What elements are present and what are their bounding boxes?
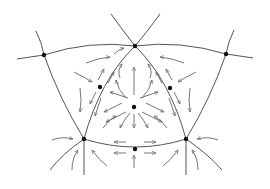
flow-arrow-icon — [142, 112, 162, 122]
flow-arrow-icon — [140, 92, 158, 98]
flow-arrow-icon — [72, 150, 78, 170]
flow-arrow-icon — [138, 113, 148, 128]
node-right-mid — [168, 86, 172, 90]
flow-arrow-icon — [156, 72, 162, 83]
flow-arrow-icon — [114, 48, 124, 54]
curve-top-arc-left — [44, 44, 135, 55]
curve-top-arc-right — [135, 44, 226, 54]
flow-arrow-icon — [163, 150, 178, 166]
node-left-mid — [98, 85, 102, 89]
node-top — [133, 44, 137, 48]
curve-outer-right-tail — [226, 54, 253, 58]
curve-tri-right — [135, 46, 186, 139]
flow-arrow-icon — [174, 92, 180, 104]
flow-arrow-icon — [90, 92, 96, 104]
flow-arrows — [52, 48, 218, 170]
curve-br-se — [186, 139, 222, 170]
flow-arrow-icon — [92, 150, 107, 166]
vector-field-diagram — [0, 0, 270, 189]
diagram-canvas — [0, 0, 270, 189]
node-bottom-left — [82, 137, 86, 141]
node-outer-right — [224, 52, 228, 56]
curve-top-right-branch — [135, 14, 160, 46]
flow-arrow-icon — [80, 88, 81, 112]
curve-tri-left — [84, 46, 135, 139]
curve-bl-sw — [50, 139, 84, 170]
flow-arrow-icon — [120, 113, 130, 128]
curve-outer-left-tail — [17, 55, 44, 59]
flow-arrow-icon — [154, 116, 167, 128]
flow-arrow-icon — [178, 72, 196, 82]
flow-arrow-icon — [166, 69, 172, 80]
flow-arrow-icon — [98, 69, 104, 80]
flow-arrow-icon — [119, 64, 122, 78]
node-bottom-mid — [133, 147, 137, 151]
flow-arrow-icon — [52, 138, 73, 140]
flow-arrow-icon — [146, 103, 164, 112]
flow-arrow-icon — [86, 57, 110, 63]
node-bottom-right — [184, 137, 188, 141]
flow-arrow-icon — [74, 72, 92, 82]
curve-top-left-branch — [111, 14, 135, 46]
fixed-point-nodes — [42, 44, 228, 151]
node-center — [132, 105, 136, 109]
flow-arrow-icon — [189, 88, 190, 112]
flow-arrow-icon — [160, 57, 184, 63]
flow-arrow-icon — [108, 72, 114, 83]
node-outer-left — [42, 53, 46, 57]
flow-arrow-icon — [197, 138, 218, 140]
flow-arrow-icon — [104, 103, 122, 112]
flow-arrow-icon — [192, 150, 198, 170]
curve-tri-bottom — [84, 139, 186, 147]
flow-arrow-icon — [148, 64, 151, 78]
flow-arrow-icon — [110, 92, 128, 98]
